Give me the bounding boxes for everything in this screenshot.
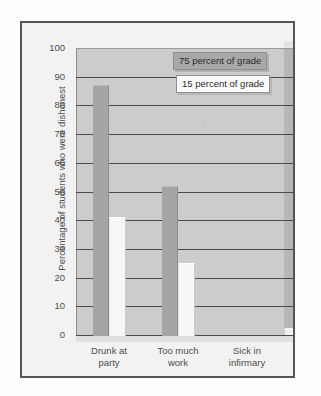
- plot-right-wall: [284, 41, 293, 328]
- y-tick-label-100: 100: [29, 43, 65, 53]
- bar-0-1: [109, 217, 126, 336]
- bar-1-1: [178, 263, 195, 336]
- x-axis-label-0: Drunk atparty: [72, 345, 146, 369]
- x-axis-label-line: Drunk at: [72, 345, 146, 357]
- x-axis-label-2: Sick ininfirmary: [210, 345, 284, 369]
- x-axis-label-line: Too much: [141, 345, 215, 357]
- legend-item-15-percent: 15 percent of grade: [176, 75, 270, 93]
- x-axis-label-1: Too muchwork: [141, 345, 215, 369]
- x-axis-label-line: work: [141, 357, 215, 369]
- y-tick-label-0: 0: [29, 330, 65, 340]
- plot-floor: [76, 335, 293, 342]
- bar-chart: 1009080706050403020100 Drunk atpartyToo …: [22, 23, 293, 376]
- gridline-100: [76, 48, 293, 49]
- bar-1-0: [162, 186, 178, 336]
- scan-speckle: [207, 238, 211, 242]
- legend-item-75-percent: 75 percent of grade: [173, 52, 267, 70]
- y-tick-label-10: 10: [29, 301, 65, 311]
- bar-0-0: [93, 85, 109, 336]
- x-axis-label-line: Sick in: [210, 345, 284, 357]
- scan-speckle: [202, 123, 206, 127]
- x-axis-label-line: infirmary: [210, 357, 284, 369]
- y-axis-title: Percentage of students who were dishones…: [56, 64, 67, 294]
- figure-frame: 1009080706050403020100 Drunk atpartyToo …: [20, 21, 295, 378]
- x-axis-label-line: party: [72, 357, 146, 369]
